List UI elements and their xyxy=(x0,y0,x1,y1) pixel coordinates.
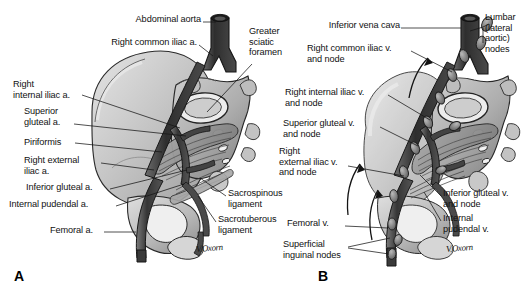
flow-arrowhead-upper xyxy=(424,58,433,66)
superficial-inguinal-node xyxy=(388,218,396,230)
femoral-artery-vessel xyxy=(137,250,146,262)
label-right-common-iliac-vein-and-node: Right common iliac v. and node xyxy=(307,43,411,64)
label-sacrotuberous-ligament: Sacrotuberous ligament xyxy=(218,214,298,235)
label-internal-pudendal-vein: Internal pudendal v. xyxy=(443,213,515,234)
label-inferior-gluteal-vein-and-node: Inferior gluteal v. and node xyxy=(443,188,531,209)
label-right-common-iliac-artery: Right common iliac a. xyxy=(76,37,197,48)
sacral-lateral-process-b xyxy=(501,148,515,162)
label-superior-gluteal-vein-and-node: Superior gluteal v. and node xyxy=(283,118,381,139)
aorta-lumen-inner xyxy=(215,17,226,21)
figure-canvas: Abdominal aorta Right common iliac a. Gr… xyxy=(0,0,531,301)
label-right-external-iliac-artery: Right external iliac a. xyxy=(24,155,112,176)
label-femoral-vein: Femoral v. xyxy=(287,218,345,229)
abdominal-aorta-vessel xyxy=(203,18,236,72)
label-greater-sciatic-foramen: Greater sciatic foramen xyxy=(249,26,297,58)
label-inferior-vena-cava: Inferior vena cava xyxy=(300,20,400,31)
leader-right-common-iliac-vein xyxy=(411,51,452,72)
label-femoral-artery: Femoral a. xyxy=(50,225,110,236)
artist-signature-a: V.Oxorn xyxy=(196,242,223,254)
panel-letter-b: B xyxy=(318,268,328,284)
label-superficial-inguinal-nodes: Superficial inguinal nodes xyxy=(283,239,369,260)
ivc-lumen-inner xyxy=(465,17,476,21)
label-lumbar-lateral-aortic-nodes: Lumbar (lateral aortic) nodes xyxy=(485,12,531,54)
label-internal-pudendal-artery: Internal pudendal a. xyxy=(9,199,119,210)
label-sacrospinous-ligament: Sacrospinous ligament xyxy=(228,188,306,209)
artist-signature-b: V.Oxorn xyxy=(446,242,473,254)
label-abdominal-aorta: Abdominal aorta xyxy=(106,14,201,25)
panel-letter-a: A xyxy=(14,268,24,284)
label-right-internal-iliac-vein-and-node: Right internal iliac v. and node xyxy=(285,87,391,108)
sacral-lateral-process xyxy=(241,148,255,162)
label-superior-gluteal-artery: Superior gluteal a. xyxy=(24,106,104,127)
label-piriformis: Piriformis xyxy=(24,137,94,148)
label-inferior-gluteal-artery: Inferior gluteal a. xyxy=(26,182,120,193)
sacral-lateral-process-b xyxy=(505,124,520,140)
label-right-internal-iliac-artery: Right internal iliac a. xyxy=(13,79,109,100)
label-right-external-iliac-vein-and-node: Right external iliac v. and node xyxy=(279,146,367,178)
sacral-lateral-process xyxy=(245,124,260,140)
